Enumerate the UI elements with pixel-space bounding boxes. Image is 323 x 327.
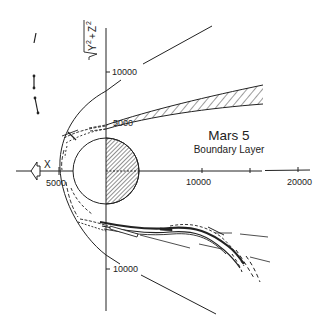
y-tick-label-upper-10000: 10000 bbox=[112, 67, 137, 77]
svg-text:Z: Z bbox=[87, 26, 98, 32]
diagram-canvas: X 5000 10000 20000 10000 5000 10000 Y 2 … bbox=[0, 0, 323, 327]
diagram-title: Mars 5 bbox=[208, 128, 249, 143]
x-tick-label-20000: 20000 bbox=[287, 177, 312, 187]
x-axis-label: X bbox=[44, 159, 51, 170]
boundary-layer-band-upper bbox=[89, 85, 263, 131]
y-axis-label: Y 2 + Z 2 bbox=[84, 20, 98, 60]
mars-planet bbox=[73, 138, 139, 204]
x-tick-label-10000: 10000 bbox=[186, 177, 211, 187]
mars5-boundary-layer-diagram: X 5000 10000 20000 10000 5000 10000 Y 2 … bbox=[0, 0, 323, 327]
diagram-subtitle: Boundary Layer bbox=[194, 144, 265, 155]
svg-text:2: 2 bbox=[85, 21, 92, 25]
left-arrow-icon bbox=[31, 162, 40, 180]
y-tick-label-lower-10000: 10000 bbox=[113, 264, 138, 274]
svg-text:+: + bbox=[87, 33, 98, 39]
scale-markers bbox=[33, 33, 39, 114]
svg-text:Y: Y bbox=[87, 44, 98, 51]
svg-text:2: 2 bbox=[85, 40, 92, 44]
